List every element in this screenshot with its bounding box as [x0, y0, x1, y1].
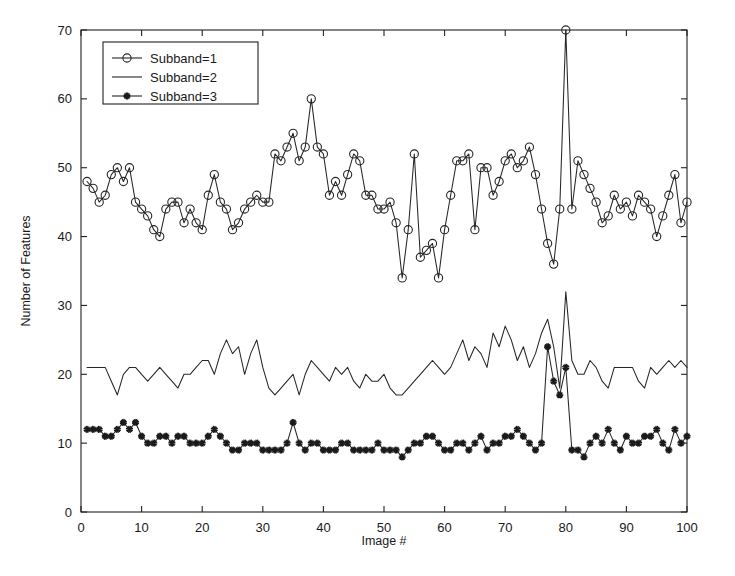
legend-label: Subband=1 [150, 51, 217, 66]
data-point [302, 447, 309, 454]
y-tick-label: 0 [65, 505, 72, 520]
data-point [132, 419, 139, 426]
data-point [635, 440, 642, 447]
data-point [587, 440, 594, 447]
data-point [629, 440, 636, 447]
data-point [296, 440, 303, 447]
data-point [162, 433, 169, 440]
data-point [223, 440, 230, 447]
data-point [677, 440, 684, 447]
y-tick-label: 10 [58, 436, 72, 451]
data-point [102, 433, 109, 440]
data-point [211, 426, 218, 433]
data-point [156, 433, 163, 440]
data-point [108, 433, 115, 440]
y-axis-title: Number of Features [19, 215, 33, 326]
x-tick-label: 10 [134, 520, 148, 535]
data-point [241, 440, 248, 447]
data-point [496, 440, 503, 447]
data-point [193, 440, 200, 447]
x-tick-label: 100 [676, 520, 698, 535]
data-point [490, 440, 497, 447]
x-axis-tick-labels: 0102030405060708090100 [77, 520, 697, 535]
data-point [429, 433, 436, 440]
data-point [623, 433, 630, 440]
data-point [314, 440, 321, 447]
plot-canvas: 0102030405060708090100 010203040506070 I… [0, 0, 735, 576]
series-2 [87, 292, 687, 395]
legend-label: Subband=3 [150, 89, 217, 104]
data-point [181, 433, 188, 440]
data-point [144, 440, 151, 447]
data-point [405, 447, 412, 454]
data-point [520, 433, 527, 440]
y-tick-label: 50 [58, 160, 72, 175]
data-point [453, 440, 460, 447]
data-point [665, 447, 672, 454]
data-point [138, 433, 145, 440]
data-point [308, 440, 315, 447]
x-tick-label: 20 [195, 520, 209, 535]
data-point [411, 440, 418, 447]
series-3 [84, 343, 691, 460]
data-point [338, 440, 345, 447]
data-point [465, 447, 472, 454]
legend-items: Subband=1Subband=2Subband=3 [112, 51, 217, 104]
x-tick-label: 30 [256, 520, 270, 535]
data-point [374, 440, 381, 447]
y-tick-label: 40 [58, 229, 72, 244]
data-point [399, 453, 406, 460]
data-point [253, 440, 260, 447]
data-point [641, 433, 648, 440]
x-tick-label: 50 [377, 520, 391, 535]
data-point [459, 440, 466, 447]
data-point [199, 440, 206, 447]
y-tick-label: 20 [58, 367, 72, 382]
data-point [617, 447, 624, 454]
data-point [344, 440, 351, 447]
data-point [593, 433, 600, 440]
chart-figure: 0102030405060708090100 010203040506070 I… [0, 0, 735, 576]
data-point [605, 426, 612, 433]
chart-legend: Subband=1Subband=2Subband=3 [103, 42, 258, 104]
x-tick-label: 90 [619, 520, 633, 535]
data-point [417, 440, 424, 447]
x-tick-label: 60 [437, 520, 451, 535]
data-point [471, 440, 478, 447]
data-point [423, 433, 430, 440]
data-point [611, 440, 618, 447]
data-point [114, 426, 121, 433]
data-point [653, 426, 660, 433]
data-point [484, 447, 491, 454]
x-tick-label: 80 [559, 520, 573, 535]
x-tick-label: 70 [498, 520, 512, 535]
data-point [532, 447, 539, 454]
data-point [150, 440, 157, 447]
series-line [87, 347, 687, 457]
data-point [120, 419, 127, 426]
data-point [477, 433, 484, 440]
data-point [284, 440, 291, 447]
data-point [187, 440, 194, 447]
data-point [508, 433, 515, 440]
data-point [205, 433, 212, 440]
y-axis-tick-labels: 010203040506070 [58, 23, 72, 520]
data-point [647, 433, 654, 440]
y-tick-label: 30 [58, 298, 72, 313]
data-point [168, 440, 175, 447]
legend-label: Subband=2 [150, 70, 217, 85]
series-line [87, 292, 687, 395]
x-tick-label: 0 [77, 520, 84, 535]
data-point [290, 419, 297, 426]
data-point [526, 440, 533, 447]
data-point [247, 440, 254, 447]
y-tick-label: 70 [58, 23, 72, 38]
data-point [502, 433, 509, 440]
data-point [581, 453, 588, 460]
data-point [217, 433, 224, 440]
data-point [599, 440, 606, 447]
data-point [126, 426, 133, 433]
y-tick-label: 60 [58, 91, 72, 106]
data-point [659, 440, 666, 447]
data-point [435, 440, 442, 447]
